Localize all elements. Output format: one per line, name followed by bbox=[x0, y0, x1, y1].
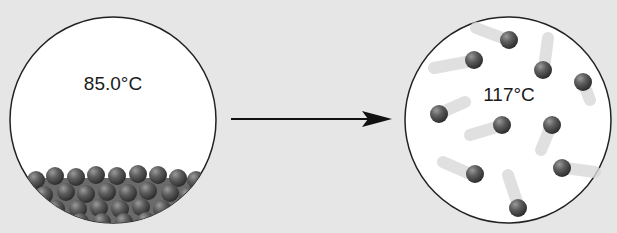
diagram-stage: 85.0°C 117°C bbox=[0, 0, 617, 233]
arrow-icon bbox=[231, 111, 392, 127]
gas-temperature-label: 117°C bbox=[483, 84, 535, 106]
liquid-temperature-label: 85.0°C bbox=[84, 73, 142, 95]
gas-container bbox=[405, 17, 611, 223]
liquid-container bbox=[10, 17, 220, 231]
diagram-graphic bbox=[0, 0, 617, 233]
